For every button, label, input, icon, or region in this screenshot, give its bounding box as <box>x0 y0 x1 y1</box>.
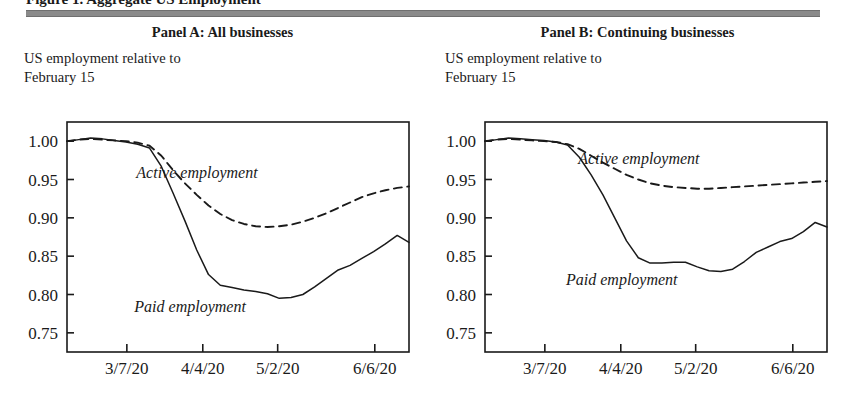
x-tick-label: 5/2/20 <box>256 359 299 378</box>
x-tick-label: 3/7/20 <box>105 359 148 378</box>
y-tick-label: 0.95 <box>28 171 58 190</box>
panel-b-svg: 1.000.950.900.850.800.753/7/204/4/205/2/… <box>423 22 846 392</box>
x-tick-label: 6/6/20 <box>353 359 396 378</box>
figure-title-clip: Figure 1. Aggregate US Employment <box>0 0 846 9</box>
series-label-active-employment: Active employment <box>135 164 258 182</box>
y-tick-label: 0.75 <box>446 324 476 343</box>
panel-b-plot: 1.000.950.900.850.800.753/7/204/4/205/2/… <box>423 22 846 392</box>
x-tick-label: 3/7/20 <box>523 359 566 378</box>
panel-a-svg: 1.000.950.900.850.800.753/7/204/4/205/2/… <box>0 22 423 392</box>
y-tick-label: 0.90 <box>446 209 476 228</box>
figure-top-rule <box>26 10 820 17</box>
x-tick-label: 5/2/20 <box>674 359 717 378</box>
series-active-employment <box>67 139 409 227</box>
y-tick-label: 0.90 <box>28 209 58 228</box>
y-tick-label: 0.85 <box>28 247 58 266</box>
series-label-paid-employment: Paid employment <box>565 271 678 289</box>
figure-title: Figure 1. Aggregate US Employment <box>26 0 261 8</box>
y-tick-label: 1.00 <box>28 132 58 151</box>
y-tick-label: 0.75 <box>28 324 58 343</box>
series-paid-employment <box>67 138 409 298</box>
y-tick-label: 0.80 <box>446 286 476 305</box>
y-tick-label: 0.95 <box>446 171 476 190</box>
y-tick-label: 0.85 <box>446 247 476 266</box>
x-tick-label: 6/6/20 <box>771 359 814 378</box>
series-label-active-employment: Active employment <box>577 150 700 168</box>
panel-b: Panel B: Continuing businesses US employ… <box>423 22 846 392</box>
panel-a: Panel A: All businesses US employment re… <box>0 22 423 392</box>
plot-frame <box>67 122 409 352</box>
x-tick-label: 4/4/20 <box>599 359 642 378</box>
y-tick-label: 0.80 <box>28 286 58 305</box>
series-label-paid-employment: Paid employment <box>133 298 246 316</box>
panel-a-plot: 1.000.950.900.850.800.753/7/204/4/205/2/… <box>0 22 423 392</box>
x-tick-label: 4/4/20 <box>181 359 224 378</box>
y-tick-label: 1.00 <box>446 132 476 151</box>
